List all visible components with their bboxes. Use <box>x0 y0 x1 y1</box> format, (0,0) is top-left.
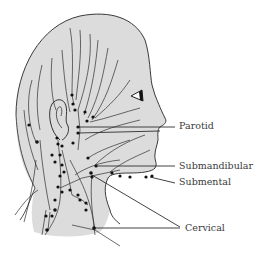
head-neck-illustration <box>0 0 258 255</box>
label-submental: Submental <box>179 177 231 187</box>
label-cervical: Cervical <box>185 223 225 233</box>
lymph-node-diagram: Parotid Submandibular Submental Cervical <box>0 0 258 255</box>
label-submandibular: Submandibular <box>179 161 253 171</box>
label-parotid: Parotid <box>179 121 214 131</box>
submental-leader <box>150 177 175 183</box>
head-silhouette <box>16 14 166 236</box>
